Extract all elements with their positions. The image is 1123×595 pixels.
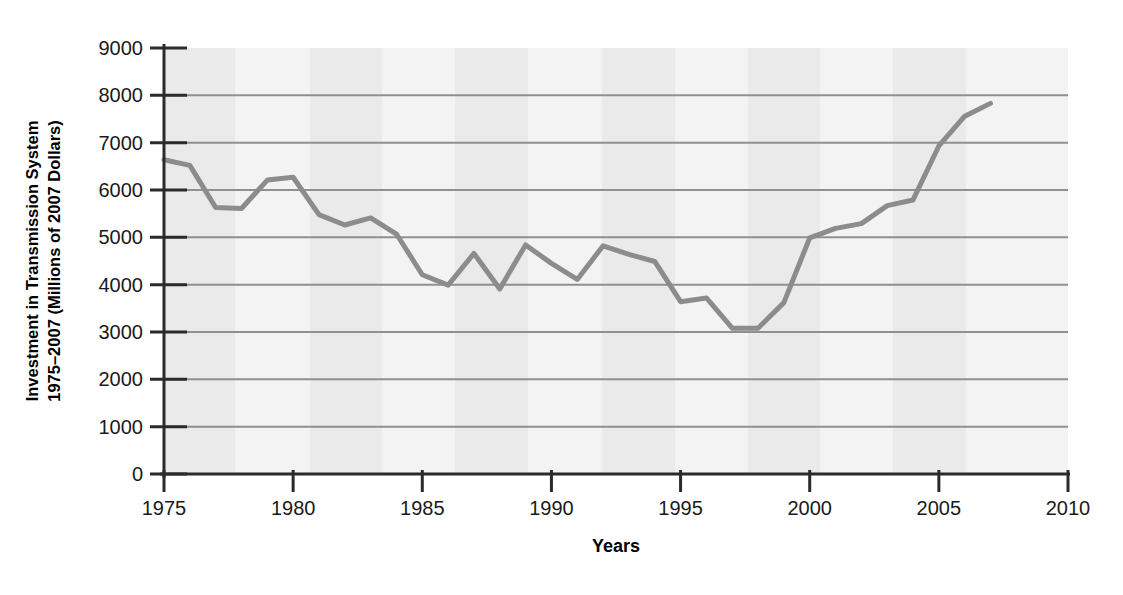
y-tick-label: 0 <box>132 463 143 485</box>
investment-line-chart: 0100020003000400050006000700080009000 19… <box>0 0 1123 595</box>
y-axis-title-line2: 1975–2007 (Millions of 2007 Dollars) <box>45 120 63 402</box>
x-tick-label: 2000 <box>787 497 832 519</box>
y-tick-label: 2000 <box>99 368 144 390</box>
y-tick-label: 4000 <box>99 274 144 296</box>
y-tick-label: 8000 <box>99 84 144 106</box>
background-band <box>164 48 235 474</box>
x-axis-title: Years <box>592 536 640 556</box>
y-tick-label: 3000 <box>99 321 144 343</box>
background-band <box>310 48 382 474</box>
x-tick-label: 2005 <box>917 497 962 519</box>
background-band <box>893 48 966 474</box>
x-tick-label: 2010 <box>1046 497 1091 519</box>
chart-svg: 0100020003000400050006000700080009000 19… <box>0 0 1123 595</box>
x-tick-label: 1990 <box>529 497 574 519</box>
y-tick-label: 5000 <box>99 226 144 248</box>
y-axis-title: Investment in Transmission System 1975–2… <box>23 120 63 402</box>
background-band <box>602 48 675 474</box>
y-axis-title-line1: Investment in Transmission System <box>23 121 41 402</box>
x-axis-tick-labels: 19751980198519901995200020052010 <box>142 497 1091 519</box>
background-band <box>748 48 820 474</box>
y-tick-label: 7000 <box>99 132 144 154</box>
y-tick-label: 6000 <box>99 179 144 201</box>
y-tick-label: 9000 <box>99 37 144 59</box>
y-tick-label: 1000 <box>99 416 144 438</box>
x-tick-label: 1975 <box>142 497 187 519</box>
y-axis-tick-labels: 0100020003000400050006000700080009000 <box>99 37 144 485</box>
x-tick-label: 1985 <box>400 497 445 519</box>
x-tick-label: 1995 <box>658 497 703 519</box>
x-tick-label: 1980 <box>271 497 316 519</box>
